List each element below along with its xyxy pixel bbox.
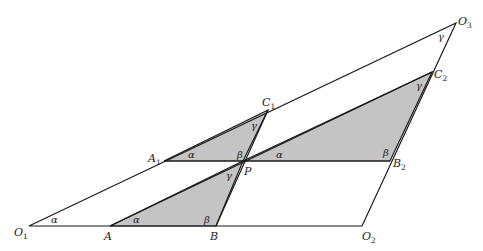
triangle-a1-p-c1 bbox=[164, 110, 268, 161]
angle-gamma-c1: γ bbox=[251, 120, 257, 131]
label-c2: C2 bbox=[434, 68, 447, 83]
label-a: A bbox=[103, 230, 112, 243]
label-o2: O2 bbox=[362, 230, 376, 245]
angle-gamma-o3: γ bbox=[438, 31, 444, 42]
label-a1: A1 bbox=[147, 152, 161, 167]
angle-alpha-p: α bbox=[276, 149, 283, 160]
angle-alpha-a: α bbox=[133, 214, 140, 225]
label-b2: B2 bbox=[392, 157, 406, 172]
angle-gamma-p-lower: γ bbox=[226, 170, 232, 181]
angle-alpha-a1: α bbox=[188, 149, 195, 160]
label-o3: O3 bbox=[458, 15, 472, 30]
angle-beta-b: β bbox=[203, 214, 210, 225]
angle-alpha-o1: α bbox=[51, 214, 58, 225]
angle-gamma-c2: γ bbox=[416, 80, 422, 91]
diagram-svg: O1 A B O2 A1 P B2 C1 C2 O3 α α β γ α β γ… bbox=[0, 0, 483, 251]
label-o1: O1 bbox=[14, 226, 28, 241]
angle-beta-b2: β bbox=[382, 147, 389, 158]
label-b: B bbox=[209, 230, 218, 243]
geometry-diagram: O1 A B O2 A1 P B2 C1 C2 O3 α α β γ α β γ… bbox=[0, 0, 483, 251]
label-p: P bbox=[243, 165, 252, 178]
label-c1: C1 bbox=[262, 96, 275, 111]
angle-beta-p: β bbox=[236, 149, 243, 160]
